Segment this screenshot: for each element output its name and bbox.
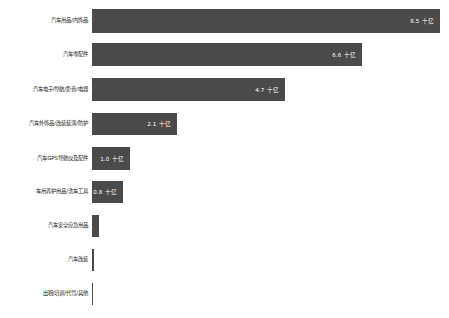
bar[interactable]: 2.1 十亿 bbox=[92, 113, 177, 135]
category-label: 车用养护用品/洗车工具 bbox=[2, 189, 88, 195]
bar-value-label: 6.6 十亿 bbox=[332, 51, 362, 59]
bar[interactable]: 0.8 十亿 bbox=[92, 181, 123, 203]
bar[interactable] bbox=[92, 249, 94, 271]
plot-area: 汽车用品/内饰品 8.5 十亿 汽车零配件 6.6 十亿 汽车电子/导航/影音/… bbox=[0, 0, 449, 318]
category-label: 汽车用品/内饰品 bbox=[2, 18, 88, 24]
bar-value-label: 1.0 十亿 bbox=[100, 155, 130, 163]
bar-row[interactable]: 汽车零配件 6.6 十亿 bbox=[0, 43, 449, 66]
bar-track: 6.6 十亿 bbox=[92, 43, 362, 66]
bar-value-label: 4.7 十亿 bbox=[255, 86, 285, 94]
category-label: 汽车零配件 bbox=[2, 52, 88, 58]
bar[interactable] bbox=[92, 215, 99, 237]
category-label: 汽车外饰品/改装装潢/防护 bbox=[2, 121, 88, 127]
bar-track: 2.1 十亿 bbox=[92, 113, 177, 135]
bar-value-label: 0.8 十亿 bbox=[93, 188, 123, 196]
bar[interactable]: 8.5 十亿 bbox=[92, 9, 440, 33]
category-label: 汽车GPS导航仪及配件 bbox=[2, 156, 88, 162]
bar-track bbox=[92, 215, 99, 237]
bar-track bbox=[92, 283, 93, 305]
bar-track: 4.7 十亿 bbox=[92, 78, 285, 101]
bar-row[interactable]: 汽车用品/内饰品 8.5 十亿 bbox=[0, 9, 449, 33]
bar-track bbox=[92, 249, 94, 271]
bar[interactable]: 6.6 十亿 bbox=[92, 43, 362, 66]
bar-row[interactable]: 车用养护用品/洗车工具 0.8 十亿 bbox=[0, 181, 449, 203]
bar-value-label: 2.1 十亿 bbox=[147, 120, 177, 128]
category-label: 汽车改装 bbox=[2, 257, 88, 263]
bar[interactable]: 1.0 十亿 bbox=[92, 147, 130, 170]
bar-row[interactable]: 汽车安全应急用品 bbox=[0, 215, 449, 237]
bar-track: 1.0 十亿 bbox=[92, 147, 130, 170]
category-label: 汽车安全应急用品 bbox=[2, 223, 88, 229]
bar-row[interactable]: 汽车电子/导航/影音/电器 4.7 十亿 bbox=[0, 78, 449, 101]
bar-row[interactable]: 汽车外饰品/改装装潢/防护 2.1 十亿 bbox=[0, 113, 449, 135]
category-label: 出租/培训/代驾/其他 bbox=[2, 291, 88, 297]
bar-value-label: 8.5 十亿 bbox=[410, 17, 440, 25]
bar-chart: 汽车用品/内饰品 8.5 十亿 汽车零配件 6.6 十亿 汽车电子/导航/影音/… bbox=[0, 0, 449, 318]
bar-row[interactable]: 出租/培训/代驾/其他 bbox=[0, 283, 449, 305]
bar-track: 8.5 十亿 bbox=[92, 9, 440, 33]
bar[interactable]: 4.7 十亿 bbox=[92, 78, 285, 101]
bar-row[interactable]: 汽车GPS导航仪及配件 1.0 十亿 bbox=[0, 147, 449, 170]
bar-row[interactable]: 汽车改装 bbox=[0, 249, 449, 271]
bar-track: 0.8 十亿 bbox=[92, 181, 123, 203]
category-label: 汽车电子/导航/影音/电器 bbox=[2, 87, 88, 93]
bar[interactable] bbox=[92, 283, 93, 305]
